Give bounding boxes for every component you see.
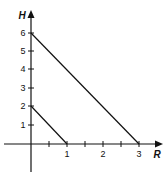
y-tick-label: 4 bbox=[20, 64, 25, 74]
line-short bbox=[31, 106, 67, 144]
x-axis-label: R bbox=[153, 149, 161, 160]
y-tick-label: 5 bbox=[20, 46, 25, 56]
x-tick-label: 3 bbox=[136, 149, 141, 159]
y-tick-label: 6 bbox=[20, 28, 25, 38]
x-axis-arrow-icon bbox=[155, 141, 163, 148]
chart: 1 2 3 1 2 3 4 5 6 R H bbox=[0, 0, 168, 175]
y-axis-label: H bbox=[18, 10, 26, 21]
x-tick-label: 1 bbox=[64, 149, 69, 159]
y-axis-arrow-icon bbox=[28, 10, 35, 18]
y-tick-label: 1 bbox=[20, 120, 25, 130]
y-tick-label: 2 bbox=[20, 101, 25, 111]
line-long bbox=[31, 33, 139, 144]
y-tick-label: 3 bbox=[20, 83, 25, 93]
x-tick-label: 2 bbox=[100, 149, 105, 159]
